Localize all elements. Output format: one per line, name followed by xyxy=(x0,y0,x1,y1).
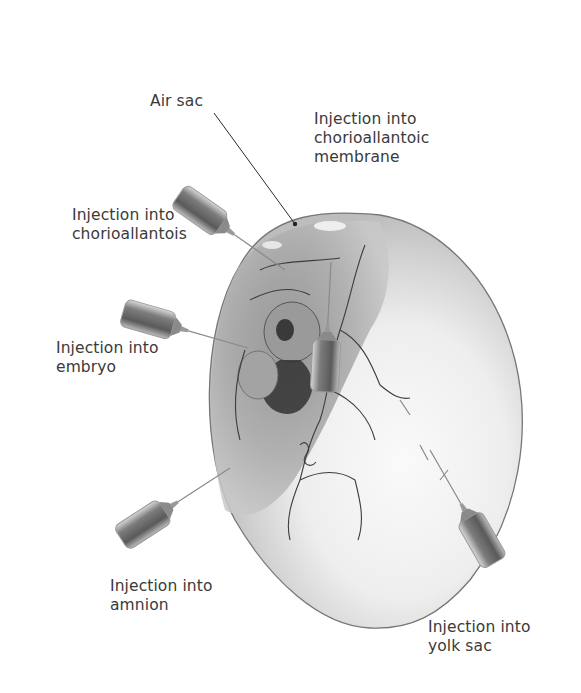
egg xyxy=(209,213,522,628)
label-injection-amnion: Injection into amnion xyxy=(110,577,212,615)
air-sac-leader xyxy=(214,113,297,226)
label-injection-embryo: Injection into embryo xyxy=(56,339,158,377)
label-injection-yolk-sac: Injection into yolk sac xyxy=(428,618,530,656)
label-injection-chorioallantois: Injection into chorioallantois xyxy=(72,206,187,244)
label-air-sac: Air sac xyxy=(150,92,203,111)
label-injection-cam: Injection into chorioallantoic membrane xyxy=(314,110,429,167)
